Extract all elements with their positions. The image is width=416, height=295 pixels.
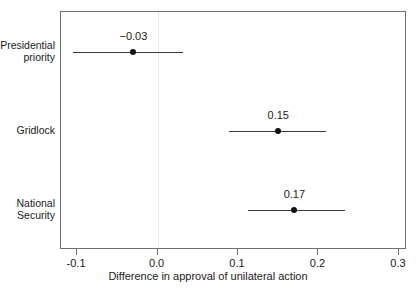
zero-reference-line bbox=[158, 12, 159, 248]
x-axis-tick-label: 0.0 bbox=[149, 257, 164, 270]
x-axis-tick bbox=[317, 249, 318, 255]
plot-area: −0.03 0.15 0.17 bbox=[60, 11, 406, 249]
x-axis-title: Difference in approval of unilateral act… bbox=[0, 270, 416, 283]
estimate-point bbox=[130, 49, 136, 55]
x-axis-tick bbox=[398, 249, 399, 255]
x-axis-tick bbox=[76, 249, 77, 255]
x-axis-tick-label: 0.3 bbox=[390, 257, 405, 270]
estimate-value-label: 0.15 bbox=[268, 109, 289, 121]
confidence-interval-bar bbox=[73, 52, 183, 53]
estimate-value-label: 0.17 bbox=[284, 188, 305, 200]
coefficient-plot-figure: −0.03 0.15 0.17 Presidential priority Gr… bbox=[0, 0, 416, 295]
x-axis: -0.10.00.10.20.3 bbox=[60, 249, 406, 250]
category-label-presidential-priority: Presidential priority bbox=[0, 39, 55, 63]
category-label-national-security: National Security bbox=[0, 197, 55, 221]
category-label-gridlock: Gridlock bbox=[0, 124, 55, 136]
x-axis-tick bbox=[157, 249, 158, 255]
x-axis-tick-label: 0.2 bbox=[310, 257, 325, 270]
x-axis-tick-label: -0.1 bbox=[67, 257, 86, 270]
estimate-point bbox=[275, 128, 281, 134]
estimate-point bbox=[291, 207, 297, 213]
estimate-value-label: −0.03 bbox=[119, 30, 147, 42]
x-axis-tick-label: 0.1 bbox=[229, 257, 244, 270]
x-axis-tick bbox=[237, 249, 238, 255]
